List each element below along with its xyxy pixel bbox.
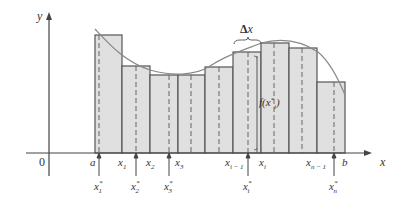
delta-x-brace <box>234 37 261 44</box>
svg-text:xi − 1: xi − 1 <box>224 156 244 171</box>
svg-text:xn − 1: xn − 1 <box>305 156 326 171</box>
rect-9 <box>317 82 345 153</box>
svg-text:a: a <box>90 156 96 168</box>
svg-text:x*n: x*n <box>328 179 338 195</box>
svg-text:x*3: x*3 <box>163 179 173 195</box>
svg-text:xi: xi <box>258 156 266 171</box>
svg-text:b: b <box>342 156 348 168</box>
svg-text:x3: x3 <box>174 156 184 171</box>
sample-labels: x*1 x*2 x*3 x*i x*n <box>93 179 338 195</box>
rect-3 <box>150 75 178 153</box>
svg-text:x*2: x*2 <box>130 179 140 195</box>
x-axis-label: x <box>379 155 386 169</box>
y-axis-arrow <box>46 12 52 20</box>
partition-labels: a x1 x2 x3 xi − 1 xi xn − 1 b <box>90 156 348 171</box>
origin-label: 0 <box>39 155 45 169</box>
rect-8 <box>289 48 317 153</box>
delta-x-label: Δx <box>240 22 254 36</box>
svg-text:x*1: x*1 <box>93 179 103 195</box>
sample-arrows <box>97 153 336 176</box>
svg-text:x*i: x*i <box>242 179 252 195</box>
svg-text:x2: x2 <box>145 156 155 171</box>
svg-text:x1: x1 <box>117 156 126 171</box>
x-axis-arrow <box>364 150 372 156</box>
rectangles <box>95 35 345 153</box>
y-axis-label: y <box>36 9 43 23</box>
riemann-sum-figure: y x 0 Δx f(x*i) a x1 x2 x3 xi − 1 xi xn … <box>0 0 404 199</box>
